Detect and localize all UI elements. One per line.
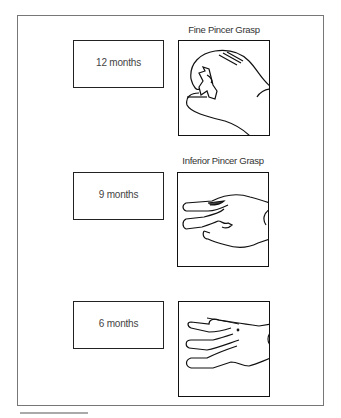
age-label: 9 months (74, 189, 163, 200)
age-box-12-months: 12 months (73, 40, 164, 88)
hand-fine-pincer-icon (179, 41, 270, 136)
caption-inferior-pincer-grasp: Inferior Pincer Grasp (153, 155, 293, 166)
footer-rule (20, 412, 88, 414)
hand-raking-grasp-illustration (178, 301, 270, 397)
caption-fine-pincer-grasp: Fine Pincer Grasp (154, 24, 294, 35)
hand-inferior-pincer-grasp-illustration (177, 172, 269, 267)
age-label: 12 months (74, 57, 163, 68)
hand-inferior-pincer-icon (178, 173, 269, 267)
hand-raking-grasp-icon (179, 302, 270, 397)
age-label: 6 months (74, 318, 163, 329)
figure-frame (17, 15, 324, 406)
hand-fine-pincer-grasp-illustration (178, 40, 270, 136)
age-box-9-months: 9 months (73, 172, 164, 220)
age-box-6-months: 6 months (73, 301, 164, 349)
